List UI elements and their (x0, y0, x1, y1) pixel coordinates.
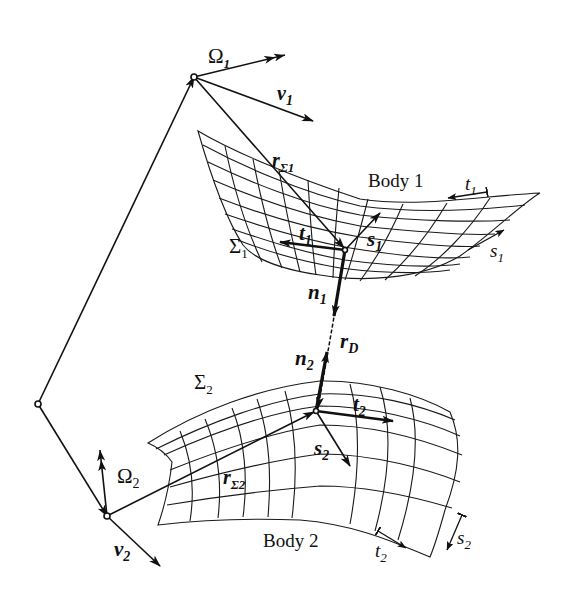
r-sigma2-vector (107, 412, 314, 516)
contact2-point (314, 409, 319, 414)
t1-edge-label: t1 (465, 173, 477, 198)
sigma2-label: Σ2 (194, 370, 213, 397)
body1-surface-mesh (198, 131, 540, 281)
body1-ref-point (191, 74, 197, 80)
body2-ref-point (104, 513, 110, 519)
omega2-label: Ω2 (117, 464, 140, 491)
diagram-canvas: Ω1 v1 rΣ1 Body 1 t1 s1 Σ1 t1 s1 n1 rD n2… (0, 0, 572, 605)
contact1-point (343, 248, 348, 253)
s1-edge-indicator (468, 230, 504, 250)
t1-label: t1 (299, 221, 312, 248)
r-sigma1-vector (194, 77, 344, 248)
v1-arrow (194, 77, 313, 121)
rD-label: rD (340, 329, 358, 356)
t2-edge-label: t2 (375, 540, 387, 565)
origin-to-body2-vector (38, 404, 107, 516)
s1-label: s1 (366, 227, 382, 254)
s2-label: s2 (313, 436, 329, 463)
origin-to-body1-vector (38, 77, 194, 404)
sigma1-label: Σ1 (229, 234, 248, 261)
omega1-label: Ω1 (208, 44, 230, 71)
v1-label: v1 (277, 82, 293, 108)
body1-label: Body 1 (368, 170, 423, 191)
t2-edge-indicator (378, 531, 406, 548)
contact-diagram: Ω1 v1 rΣ1 Body 1 t1 s1 Σ1 t1 s1 n1 rD n2… (0, 0, 572, 605)
v2-label: v2 (114, 537, 130, 564)
r-sigma1-label: rΣ1 (272, 149, 294, 175)
origin-point (35, 401, 41, 407)
n1-label: n1 (308, 280, 327, 307)
body2-label: Body 2 (263, 530, 318, 551)
n2-label: n2 (295, 346, 314, 373)
s1-edge-label: s1 (490, 240, 504, 265)
s2-edge-label: s2 (457, 527, 471, 552)
